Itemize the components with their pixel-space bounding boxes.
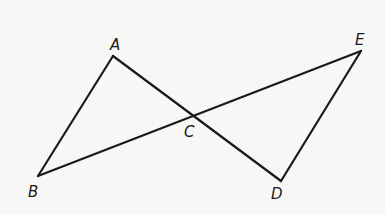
diagram-svg: A B C D E	[0, 0, 385, 214]
label-b: B	[28, 183, 38, 201]
geometry-diagram: A B C D E	[0, 0, 385, 214]
label-a: A	[109, 36, 120, 54]
segment-be	[38, 51, 361, 176]
label-e: E	[355, 31, 365, 49]
segment-ad	[113, 56, 281, 181]
label-d: D	[271, 185, 283, 203]
label-c: C	[184, 123, 195, 141]
segment-ab	[38, 56, 113, 176]
segment-ed	[281, 51, 361, 181]
